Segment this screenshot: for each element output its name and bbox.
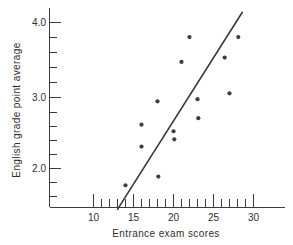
- scatter-plot-figure: 4.0 3.0 2.0 English grade point average: [0, 0, 293, 245]
- chart-canvas: 4.0 3.0 2.0 English grade point average: [0, 0, 293, 245]
- x-tick-label-20: 20: [168, 212, 180, 223]
- data-point: [139, 123, 143, 127]
- data-point: [179, 60, 183, 64]
- data-point: [196, 116, 200, 120]
- y-tick-label-4.0: 4.0: [32, 17, 46, 28]
- data-point: [195, 97, 199, 101]
- y-axis-group: 4.0 3.0 2.0 English grade point average: [11, 8, 61, 207]
- data-point: [171, 129, 175, 133]
- data-point: [123, 183, 127, 187]
- data-point: [227, 91, 231, 95]
- data-points-group: [123, 35, 240, 187]
- x-tick-label-15: 15: [128, 212, 140, 223]
- y-tick-label-3.0: 3.0: [32, 92, 46, 103]
- y-axis-title: English grade point average: [11, 42, 22, 177]
- data-point: [223, 55, 227, 59]
- data-point: [172, 137, 176, 141]
- data-point: [236, 35, 240, 39]
- x-tick-label-25: 25: [208, 212, 220, 223]
- x-axis-group: 10 15 20 25 30 Entrance exam scores: [50, 194, 286, 239]
- regression-line: [118, 12, 243, 209]
- data-point: [155, 99, 159, 103]
- data-point: [187, 35, 191, 39]
- data-point: [139, 145, 143, 149]
- data-point: [156, 174, 160, 178]
- x-tick-label-30: 30: [248, 212, 260, 223]
- x-tick-label-10: 10: [88, 212, 100, 223]
- y-tick-label-2.0: 2.0: [32, 163, 46, 174]
- x-axis-title: Entrance exam scores: [112, 228, 220, 239]
